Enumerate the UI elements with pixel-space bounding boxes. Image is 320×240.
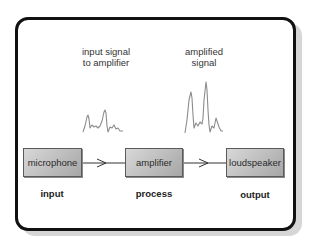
amplified-signal-caption-line-2: signal xyxy=(178,57,230,68)
loudspeaker-label: loudspeaker xyxy=(229,157,281,168)
amplified-signal-caption-line-1: amplified xyxy=(178,46,230,57)
loudspeaker-block: loudspeaker xyxy=(226,148,284,177)
stage-label-output: output xyxy=(234,189,276,200)
input-signal-caption: input signal to amplifier xyxy=(76,46,136,68)
stage-label-process: process xyxy=(130,188,178,199)
input-signal-caption-line-2: to amplifier xyxy=(76,57,136,68)
amplifier-block: amplifier xyxy=(125,148,183,177)
amplified-signal-caption: amplified signal xyxy=(178,46,230,68)
stage-label-input: input xyxy=(34,188,70,199)
input-signal-caption-line-1: input signal xyxy=(76,46,136,57)
amplifier-label: amplifier xyxy=(136,157,172,168)
microphone-block: microphone xyxy=(23,148,82,177)
microphone-label: microphone xyxy=(28,157,78,168)
